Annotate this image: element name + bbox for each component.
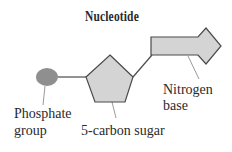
sugar-leader-line [112,102,116,118]
phosphate-label-line1: Phosphate [14,106,72,122]
phosphate-group-shape [36,68,58,86]
base-label-line1: Nitrogen [163,82,213,98]
base-label-line2: base [163,98,188,114]
phosphate-leader-line [43,86,45,105]
sugar-pentagon-shape [86,55,133,102]
sugar-label: 5-carbon sugar [81,123,165,139]
sugar-base-bond [133,55,152,77]
base-leader-line [188,56,199,79]
phosphate-label-line2: group [14,123,47,139]
nitrogen-base-shape [151,28,221,64]
